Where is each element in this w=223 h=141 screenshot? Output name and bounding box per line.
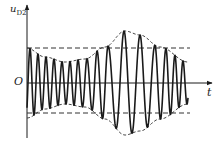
t-axis-label: t <box>207 86 211 99</box>
y-axis-label: uD2 <box>10 3 27 17</box>
lower-envelope-dashed <box>27 104 188 135</box>
waveform-diagram <box>0 0 223 141</box>
origin-label: O <box>14 75 23 88</box>
